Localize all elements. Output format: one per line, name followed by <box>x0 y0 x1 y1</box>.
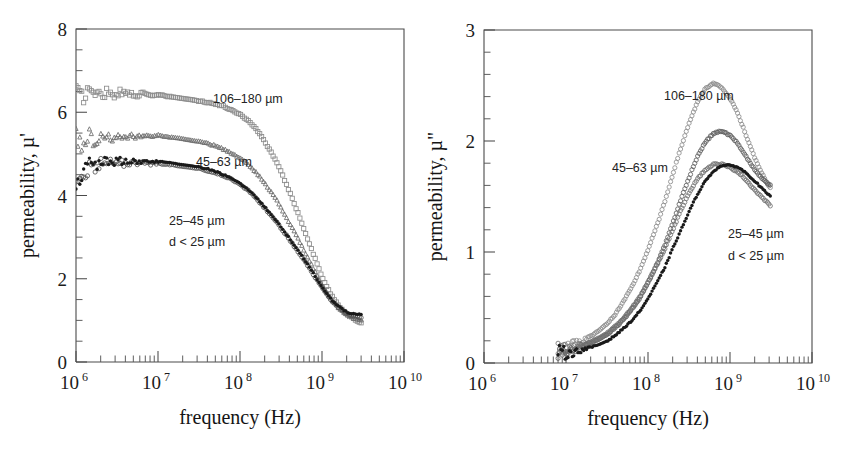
right-datapoint <box>579 351 582 354</box>
left-yaxis-title: permeability, µ' <box>16 133 39 258</box>
right-xaxis-title: frequency (Hz) <box>587 407 709 430</box>
left-datapoint <box>321 287 324 290</box>
left-yticklabel: 8 <box>58 19 68 40</box>
left-xticklabel: 10 <box>306 372 325 393</box>
left-datapoint <box>260 202 263 205</box>
right-datapoint <box>700 185 703 188</box>
right-datapoint <box>575 347 578 350</box>
right-datapoint <box>685 217 688 220</box>
left-annotation-0: 106–180 µm <box>213 92 283 106</box>
left-datapoint <box>86 162 89 165</box>
right-xticklabel-exponent: 8 <box>654 371 660 385</box>
right-xticklabel-exponent: 6 <box>490 371 496 385</box>
left-datapoint <box>82 167 85 170</box>
right-yticklabel: 3 <box>466 20 476 41</box>
left-datapoint <box>97 159 100 162</box>
right-datapoint <box>677 232 680 235</box>
left-datapoint <box>300 254 303 257</box>
right-datapoint <box>686 213 689 216</box>
right-datapoint <box>682 223 685 226</box>
right-datapoint <box>556 353 559 356</box>
left-datapoint <box>317 281 320 284</box>
left-datapoint <box>80 179 83 182</box>
left-xticklabel-exponent: 7 <box>164 370 170 384</box>
right-xticklabel: 10 <box>796 373 815 394</box>
left-datapoint <box>78 183 81 186</box>
left-datapoint <box>308 266 311 269</box>
left-annotation-1: 45–63 µm <box>196 155 252 169</box>
right-xticklabel-exponent: 10 <box>818 371 830 385</box>
right-xticklabel: 10 <box>550 373 569 394</box>
left-datapoint <box>256 197 259 200</box>
left-datapoint <box>113 164 116 167</box>
right-datapoint <box>676 236 679 239</box>
left-annotation-2: 25–45 µm <box>169 214 225 228</box>
left-xticklabel-exponent: 9 <box>328 370 334 384</box>
right-datapoint <box>572 354 575 357</box>
left-datapoint <box>107 163 110 166</box>
left-datapoint <box>122 161 125 164</box>
right-datapoint <box>659 274 662 277</box>
right-datapoint <box>569 350 572 353</box>
right-annotation-2: 25–45 µm <box>728 227 784 241</box>
right-datapoint <box>695 196 698 199</box>
left-datapoint <box>315 278 318 281</box>
right-yaxis-title: permeability, µ" <box>424 132 447 261</box>
left-xticklabel: 10 <box>224 372 243 393</box>
right-datapoint <box>690 204 693 207</box>
left-xticklabel: 10 <box>142 372 161 393</box>
left-xticklabel-exponent: 10 <box>410 370 422 384</box>
left-datapoint <box>329 296 332 299</box>
left-xaxis-title: frequency (Hz) <box>179 406 301 429</box>
left-datapoint <box>296 249 299 252</box>
right-yticklabel: 2 <box>466 131 476 152</box>
right-annotation-0: 106–180 µm <box>664 89 734 103</box>
left-datapoint <box>287 235 290 238</box>
right-datapoint <box>669 251 672 254</box>
left-datapoint <box>277 222 280 225</box>
right-xticklabel: 10 <box>632 373 651 394</box>
left-datapoint <box>289 238 292 241</box>
left-annotation-3: d < 25 µm <box>169 235 225 249</box>
right-xticklabel-exponent: 7 <box>572 371 578 385</box>
right-datapoint <box>558 344 561 347</box>
left-datapoint <box>101 163 104 166</box>
right-datapoint <box>687 210 690 213</box>
right-datapoint <box>649 292 652 295</box>
right-yticklabel: 0 <box>466 353 476 374</box>
left-datapoint <box>118 156 121 159</box>
right-datapoint <box>679 229 682 232</box>
left-datapoint <box>313 275 316 278</box>
right-datapoint <box>561 349 564 352</box>
right-xticklabel-exponent: 9 <box>736 371 742 385</box>
left-xticklabel-exponent: 6 <box>82 370 88 384</box>
left-datapoint <box>312 271 315 274</box>
left-yticklabel: 0 <box>58 352 68 373</box>
right-annotation-3: d < 25 µm <box>728 249 784 263</box>
right-yticklabel: 1 <box>466 242 476 263</box>
right-datapoint <box>562 345 565 348</box>
left-datapoint <box>134 159 137 162</box>
right-datapoint <box>566 356 569 359</box>
left-yticklabel: 2 <box>58 269 68 290</box>
left-xticklabel: 10 <box>388 372 407 393</box>
left-xticklabel: 10 <box>60 372 79 393</box>
right-datapoint <box>769 194 772 197</box>
right-datapoint <box>667 256 670 259</box>
left-xticklabel-exponent: 8 <box>246 370 252 384</box>
left-datapoint <box>95 168 98 171</box>
right-xticklabel: 10 <box>714 373 733 394</box>
right-datapoint <box>673 242 676 245</box>
left-datapoint <box>319 284 322 287</box>
left-datapoint <box>105 156 108 159</box>
right-datapoint <box>675 239 678 242</box>
right-datapoint <box>663 266 666 269</box>
right-datapoint <box>670 248 673 251</box>
left-datapoint <box>93 160 96 163</box>
figure-canvas: 106107108109101002468frequency (Hz)perme… <box>0 0 857 455</box>
left-datapoint <box>302 257 305 260</box>
left-datapoint <box>283 230 286 233</box>
right-annotation-1: 45–63 µm <box>612 161 668 175</box>
left-datapoint <box>306 262 309 265</box>
left-datapoint <box>76 177 79 180</box>
